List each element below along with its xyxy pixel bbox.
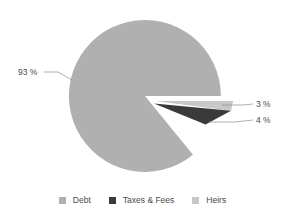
legend-label-taxes-fees: Taxes & Fees	[123, 196, 175, 205]
legend-swatch-taxes-fees-icon	[109, 197, 116, 204]
data-label-debt: 93 %	[18, 67, 38, 77]
legend-swatch-debt-icon	[59, 197, 66, 204]
legend-item-taxes-fees[interactable]: Taxes & Fees	[109, 196, 175, 205]
legend-item-heirs[interactable]: Heirs	[192, 196, 226, 205]
leader-line-taxes-fees	[209, 120, 253, 122]
chart-legend: Debt Taxes & Fees Heirs	[0, 190, 285, 210]
legend-label-heirs: Heirs	[206, 196, 226, 205]
legend-item-debt[interactable]: Debt	[59, 196, 91, 205]
pie-chart: 93 % 3 % 4 % Debt Taxes & Fees Heirs	[0, 0, 285, 223]
legend-label-debt: Debt	[73, 196, 91, 205]
pie-slice-debt	[69, 20, 221, 172]
data-label-taxes-fees: 4 %	[256, 115, 271, 125]
leader-line-debt	[44, 72, 72, 80]
legend-swatch-heirs-icon	[192, 197, 199, 204]
data-label-heirs: 3 %	[256, 99, 271, 109]
